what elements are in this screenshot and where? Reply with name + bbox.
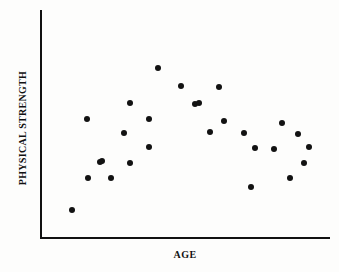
x-axis-label: AGE (173, 249, 196, 260)
chart-plot-area: PHYSICAL STRENGTH AGE (0, 0, 339, 272)
data-point (178, 83, 184, 89)
data-point (69, 207, 75, 213)
data-point (252, 145, 258, 151)
data-point (85, 175, 91, 181)
data-point (196, 100, 202, 106)
data-point (295, 131, 301, 137)
data-point (108, 175, 114, 181)
data-point (241, 130, 247, 136)
data-points-layer (0, 0, 339, 272)
data-point (207, 129, 213, 135)
data-point (216, 84, 222, 90)
data-point (301, 160, 307, 166)
data-point (146, 116, 152, 122)
data-point (155, 65, 161, 71)
data-point (287, 175, 293, 181)
data-point (84, 116, 90, 122)
data-point (127, 100, 133, 106)
data-point (146, 144, 152, 150)
data-point (279, 120, 285, 126)
data-point (127, 160, 133, 166)
data-point (271, 146, 277, 152)
data-point (121, 130, 127, 136)
data-point (248, 184, 254, 190)
data-point (221, 118, 227, 124)
scatter-plot-screenshot: PHYSICAL STRENGTH AGE (0, 0, 339, 272)
data-point (306, 144, 312, 150)
data-point (99, 158, 105, 164)
y-axis-label: PHYSICAL STRENGTH (17, 71, 28, 185)
